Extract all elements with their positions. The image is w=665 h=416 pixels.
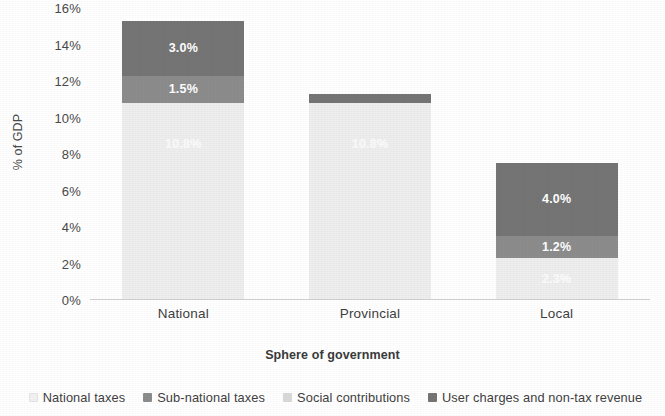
legend-label: Social contributions: [297, 390, 410, 405]
bar-segment[interactable]: 1.2%: [496, 236, 618, 258]
x-axis-line: [90, 299, 650, 300]
bar-segment[interactable]: 4.0%: [496, 163, 618, 236]
bar-group: 10.8%1.5%3.0%: [122, 8, 244, 300]
bar-segment[interactable]: 10.8%: [309, 103, 431, 300]
plot-inner: 0%2%4%6%8%10%12%14%16% 10.8%1.5%3.0%10.8…: [90, 8, 650, 300]
bar-segment-label: 4.0%: [542, 193, 571, 206]
stacked-bar[interactable]: 10.8%1.5%3.0%: [122, 21, 244, 300]
y-axis-tick: 14%: [54, 37, 81, 52]
stacked-bar[interactable]: 2.3%1.2%4.0%: [496, 163, 618, 300]
bar-group: 2.3%1.2%4.0%: [496, 8, 618, 300]
y-axis-tick: 0%: [62, 293, 81, 308]
plot-area: 0%2%4%6%8%10%12%14%16% 10.8%1.5%3.0%10.8…: [90, 8, 650, 300]
y-axis-tick: 16%: [54, 1, 81, 16]
bar-segment-label: 1.2%: [542, 241, 571, 254]
bar-segment-label: 10.8%: [165, 138, 201, 151]
bar-segment-label: 3.0%: [169, 42, 198, 55]
legend-item[interactable]: Social contributions: [283, 390, 410, 405]
chart-legend: National taxesSub-national taxesSocial c…: [0, 390, 665, 405]
legend-item[interactable]: Sub-national taxes: [143, 390, 265, 405]
bar-group: 10.8%: [309, 8, 431, 300]
x-axis-tick: Provincial: [277, 306, 464, 321]
bar-segment[interactable]: 1.5%: [122, 76, 244, 103]
x-axis-tick: National: [90, 306, 277, 321]
legend-item[interactable]: User charges and non-tax revenue: [428, 390, 642, 405]
legend-label: National taxes: [43, 390, 126, 405]
y-axis-tick: 4%: [62, 220, 81, 235]
bar-segment[interactable]: 3.0%: [122, 21, 244, 76]
bar-segment-label: 10.8%: [352, 138, 388, 151]
y-axis-tick: 12%: [54, 74, 81, 89]
bar-segment[interactable]: 2.3%: [496, 258, 618, 300]
y-axis-tick: 6%: [62, 183, 81, 198]
legend-swatch-icon: [143, 393, 152, 402]
stacked-bar-chart: % of GDP 0%2%4%6%8%10%12%14%16% 10.8%1.5…: [0, 0, 665, 416]
bar-segment[interactable]: 10.8%: [122, 103, 244, 300]
y-axis-tick: 2%: [62, 256, 81, 271]
bar-segment-label: 1.5%: [169, 83, 198, 96]
stacked-bar[interactable]: 10.8%: [309, 94, 431, 300]
legend-swatch-icon: [29, 393, 38, 402]
y-axis-tick: 10%: [54, 110, 81, 125]
x-axis-title: Sphere of government: [0, 348, 665, 362]
legend-label: Sub-national taxes: [157, 390, 265, 405]
legend-item[interactable]: National taxes: [29, 390, 126, 405]
legend-swatch-icon: [283, 393, 292, 402]
bar-segment[interactable]: [309, 94, 431, 103]
y-axis-tick: 8%: [62, 147, 81, 162]
bar-segment-label: 2.3%: [542, 273, 571, 286]
legend-label: User charges and non-tax revenue: [442, 390, 642, 405]
x-axis-tick: Local: [463, 306, 650, 321]
y-axis-title: % of GDP: [11, 92, 25, 192]
legend-swatch-icon: [428, 393, 437, 402]
